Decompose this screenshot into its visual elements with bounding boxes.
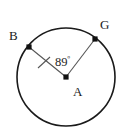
geometry-figure: B G A 89º xyxy=(0,0,130,135)
point-label-g: G xyxy=(100,17,109,32)
circle-diagram-canvas: B G A 89º xyxy=(0,0,130,135)
point-label-a: A xyxy=(73,84,83,99)
point-dot-b xyxy=(26,44,31,49)
point-label-b: B xyxy=(9,28,18,43)
angle-measure-value: 89 xyxy=(55,55,68,69)
radius-segment-ag xyxy=(66,39,95,77)
point-dot-g xyxy=(92,36,97,41)
degree-symbol-icon: º xyxy=(68,55,71,64)
point-dot-a xyxy=(63,74,68,79)
angle-measure-label: 89º xyxy=(55,55,71,70)
